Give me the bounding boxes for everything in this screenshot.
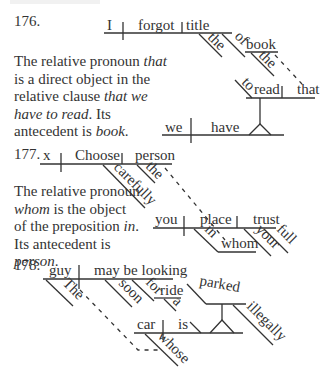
word-object: title — [186, 17, 210, 33]
word-subject: I — [107, 17, 112, 33]
word-may-be-looking: may be looking — [94, 262, 188, 278]
word-have: have — [211, 119, 240, 135]
word-parked: parked — [198, 272, 241, 295]
word-we: we — [165, 119, 183, 135]
word-book: book — [246, 36, 277, 52]
word-that: that — [297, 81, 320, 97]
word-car: car — [137, 316, 155, 332]
word-you: you — [155, 211, 178, 227]
sentence-diagrams: I forgot title the of book the to read t… — [0, 0, 327, 367]
page: 176. 177. 178. The relative pronoun that… — [0, 0, 327, 367]
word-guy: guy — [49, 262, 72, 278]
word-verb: forgot — [138, 17, 175, 33]
word-read: read — [254, 81, 280, 97]
diagram-178: guy may be looking The soon for ride a c… — [43, 262, 290, 366]
word-illegally: illegally — [244, 298, 290, 344]
word-choose: Choose — [75, 147, 120, 163]
word-x: x — [43, 147, 51, 163]
word-is: is — [178, 316, 188, 332]
diagram-177: x Choose person carefully the you place … — [40, 147, 300, 256]
diagram-176: I forgot title the of book the to read t… — [104, 17, 320, 143]
